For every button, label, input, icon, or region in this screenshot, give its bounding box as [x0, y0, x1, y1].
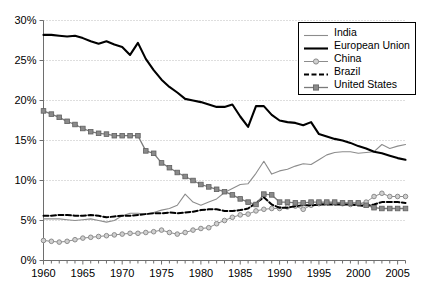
data-point — [387, 206, 392, 211]
data-point — [183, 174, 188, 179]
data-point — [199, 182, 204, 187]
data-point — [387, 194, 392, 199]
x-axis-tick-label: 1970 — [106, 267, 138, 279]
y-axis-tick-label: 20% — [0, 94, 37, 106]
data-point — [309, 200, 314, 205]
data-point — [325, 200, 330, 205]
data-point — [293, 201, 298, 206]
data-point — [65, 119, 70, 124]
x-axis-tick-label: 1980 — [185, 267, 217, 279]
y-axis-tick-label: 25% — [0, 54, 37, 66]
data-point — [167, 230, 172, 235]
data-point — [301, 201, 306, 206]
data-point — [151, 151, 156, 156]
data-point — [49, 112, 54, 117]
data-point — [191, 228, 196, 233]
data-point — [230, 215, 235, 220]
legend-swatch-icon — [303, 66, 329, 77]
data-point — [175, 232, 180, 237]
y-axis-tick-label: 15% — [0, 134, 37, 146]
x-axis-tick-label: 2000 — [342, 267, 374, 279]
data-point — [403, 206, 408, 211]
data-point — [262, 207, 267, 212]
data-point — [57, 240, 62, 245]
legend-item-united-states[interactable]: United States — [303, 78, 410, 91]
legend-item-label: China — [334, 53, 361, 64]
legend-item-label: European Union — [334, 40, 410, 51]
x-axis-tick-label: 1985 — [224, 267, 256, 279]
data-point — [191, 178, 196, 183]
data-point — [120, 232, 125, 237]
data-point — [81, 126, 86, 131]
legend-item-label: India — [334, 27, 357, 38]
data-point — [159, 228, 164, 233]
data-point — [159, 161, 164, 166]
data-point — [222, 218, 227, 223]
data-point — [214, 221, 219, 226]
y-axis-tick-label: 5% — [0, 214, 37, 226]
data-point — [112, 233, 117, 238]
data-point — [395, 206, 400, 211]
data-point — [380, 206, 385, 211]
data-point — [356, 201, 361, 206]
chart-legend: IndiaEuropean UnionChinaBrazilUnited Sta… — [298, 22, 416, 95]
legend-swatch-icon — [303, 40, 329, 51]
data-point — [206, 225, 211, 230]
data-point — [364, 203, 369, 208]
x-axis-tick-label: 1975 — [146, 267, 178, 279]
legend-item-china[interactable]: China — [303, 52, 410, 65]
data-point — [57, 115, 62, 120]
data-point — [269, 206, 274, 211]
data-point — [120, 133, 125, 138]
data-point — [403, 194, 408, 199]
legend-item-brazil[interactable]: Brazil — [303, 65, 410, 78]
data-point — [151, 229, 156, 234]
data-point — [254, 209, 259, 214]
data-point — [65, 239, 70, 244]
data-point — [340, 201, 345, 206]
legend-swatch-icon — [303, 53, 329, 64]
y-axis-tick-label: 0% — [0, 254, 37, 266]
y-axis-tick-label: 10% — [0, 174, 37, 186]
legend-swatch-icon — [303, 79, 329, 90]
data-point — [285, 200, 290, 205]
data-point — [112, 133, 117, 138]
y-axis-tick-label: 30% — [0, 14, 37, 26]
x-axis-tick-label: 1960 — [28, 267, 60, 279]
data-point — [49, 239, 54, 244]
data-point — [317, 200, 322, 205]
data-point — [230, 193, 235, 198]
data-point — [175, 170, 180, 175]
data-point — [183, 230, 188, 235]
legend-item-european-union[interactable]: European Union — [303, 39, 410, 52]
data-point — [395, 194, 400, 199]
data-point — [167, 165, 172, 170]
x-axis-tick-label: 1995 — [303, 267, 335, 279]
data-point — [73, 237, 78, 242]
data-point — [246, 200, 251, 205]
data-point — [254, 202, 259, 207]
line-chart: 0%5%10%15%20%25%30%196019651970197519801… — [0, 0, 425, 287]
legend-item-label: Brazil — [334, 66, 360, 77]
data-point — [128, 133, 133, 138]
data-point — [372, 205, 377, 210]
legend-item-label: United States — [334, 79, 397, 90]
legend-swatch-icon — [303, 27, 329, 38]
data-point — [199, 226, 204, 231]
data-point — [238, 213, 243, 218]
x-axis-tick-label: 1990 — [264, 267, 296, 279]
data-point — [136, 231, 141, 236]
data-point — [88, 129, 93, 134]
data-point — [238, 197, 243, 202]
data-point — [41, 109, 46, 114]
data-point — [81, 236, 86, 241]
data-point — [41, 238, 46, 243]
data-point — [222, 189, 227, 194]
legend-item-india[interactable]: India — [303, 26, 410, 39]
data-point — [301, 207, 306, 212]
data-point — [96, 234, 101, 239]
data-point — [348, 201, 353, 206]
x-axis-tick-label: 1965 — [67, 267, 99, 279]
data-point — [269, 193, 274, 198]
data-point — [144, 230, 149, 235]
